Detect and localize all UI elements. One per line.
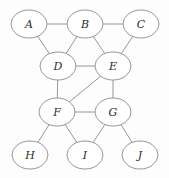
graph-node-label-d: D xyxy=(53,60,63,73)
graph-node-c[interactable]: C xyxy=(123,10,159,38)
graph-figure: ABCDEFGHIJ xyxy=(0,0,169,178)
graph-node-b[interactable]: B xyxy=(67,10,103,38)
graph-node-d[interactable]: D xyxy=(40,52,76,80)
graph-node-h[interactable]: H xyxy=(12,141,48,169)
graph-edge-b-d xyxy=(66,37,77,54)
graph-node-label-i: I xyxy=(82,149,88,162)
graph-node-label-c: C xyxy=(137,18,146,31)
graph-node-label-g: G xyxy=(109,106,118,119)
graph-node-label-e: E xyxy=(108,60,117,73)
graph-edge-g-j xyxy=(121,125,132,143)
graph-edge-a-d xyxy=(38,36,50,53)
graph-node-label-h: H xyxy=(24,149,35,162)
graph-edge-f-h xyxy=(38,125,49,143)
graph-node-g[interactable]: G xyxy=(95,98,131,126)
graph-node-label-b: B xyxy=(80,18,89,31)
graph-edge-b-e xyxy=(93,36,104,53)
graph-node-label-j: J xyxy=(136,149,143,162)
graph-node-e[interactable]: E xyxy=(95,52,131,80)
graph-node-i[interactable]: I xyxy=(67,141,103,169)
graph-node-label-a: A xyxy=(24,18,33,31)
graph-node-a[interactable]: A xyxy=(11,10,47,38)
graph-node-f[interactable]: F xyxy=(39,98,75,126)
graph-node-j[interactable]: J xyxy=(122,141,158,169)
graph-edge-e-f xyxy=(69,76,100,102)
graph-edge-f-i xyxy=(65,124,77,142)
graph-edge-g-i xyxy=(93,124,105,142)
graph-edge-c-e xyxy=(121,36,132,53)
graph-node-label-f: F xyxy=(52,106,61,119)
graph-canvas: ABCDEFGHIJ xyxy=(0,0,169,178)
